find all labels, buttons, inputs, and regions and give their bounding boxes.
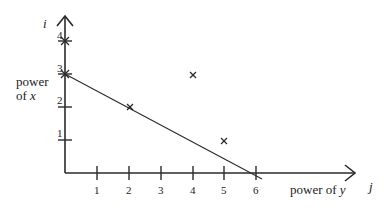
x-tick-label: 5 [221, 184, 227, 196]
horizontal-axis-name-var: y [340, 182, 346, 197]
vertical-axis-name-line2: of x [16, 89, 36, 103]
y-tick-label: 2 [57, 94, 63, 106]
axes [57, 16, 355, 181]
vertical-axis-symbol: i [43, 17, 47, 31]
vertical-axis-name-var: x [30, 88, 36, 103]
vertical-axis-name-line1: power [16, 75, 49, 89]
x-tick-label: 4 [190, 184, 196, 196]
point-cross-icon [221, 138, 227, 144]
y-tick-label: 1 [57, 127, 63, 139]
x-tick-label: 2 [126, 184, 132, 196]
y-tick-label: 3 [57, 62, 63, 74]
y-tick-label: 4 [57, 29, 63, 41]
data-points [61, 37, 227, 144]
horizontal-axis-name: power of y [290, 183, 346, 197]
x-tick-label: 3 [158, 184, 164, 196]
x-tick-label: 1 [94, 184, 100, 196]
horizontal-axis-symbol: j [369, 180, 373, 194]
vertical-axis-name-prefix: of [16, 88, 30, 103]
x-tick-label: 6 [253, 184, 259, 196]
horizontal-axis-name-prefix: power of [290, 182, 340, 197]
support-line [65, 74, 262, 179]
point-cross-icon [190, 72, 196, 78]
